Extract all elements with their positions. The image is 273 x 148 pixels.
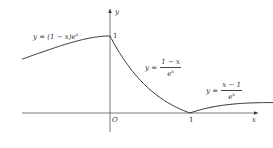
y-axis-label: y — [115, 9, 119, 16]
x-axis-label: x — [252, 117, 256, 124]
curve-right — [190, 103, 273, 113]
y-tick-1-label: 1 — [113, 33, 117, 40]
label-right-curve: y = x − 1 ex — [206, 82, 242, 101]
function-graph — [0, 0, 273, 148]
x-tick-1-label: 1 — [189, 117, 193, 124]
label-left-curve: y = (1 − x)ex — [33, 32, 78, 41]
origin-label: O — [112, 117, 118, 124]
label-middle-curve: y = 1 − x ex — [145, 59, 181, 78]
